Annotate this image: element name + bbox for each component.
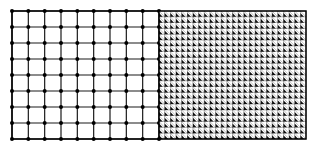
mesh-node (141, 105, 145, 109)
mesh-node (75, 89, 79, 93)
mesh-node (108, 57, 112, 61)
mesh-node (124, 121, 128, 125)
mesh-node (141, 25, 145, 29)
mesh-node (92, 105, 96, 109)
mesh-node (75, 121, 79, 125)
mesh-node (75, 57, 79, 61)
mesh-node (26, 73, 30, 77)
mesh-node (43, 73, 47, 77)
mesh-node (43, 121, 47, 125)
mesh-node (59, 121, 63, 125)
mesh-node (124, 105, 128, 109)
mesh-node (108, 105, 112, 109)
mesh-node (108, 89, 112, 93)
mesh-node (26, 105, 30, 109)
mesh-node (108, 41, 112, 45)
mesh-node (92, 73, 96, 77)
mesh-node (92, 25, 96, 29)
mesh-node (92, 121, 96, 125)
mesh-node (43, 25, 47, 29)
mesh-diagram (0, 0, 318, 149)
mesh-node (59, 25, 63, 29)
mesh-node (43, 41, 47, 45)
mesh-node (141, 41, 145, 45)
mesh-node (124, 73, 128, 77)
mesh-node (124, 41, 128, 45)
mesh-node (108, 121, 112, 125)
mesh-node (124, 89, 128, 93)
mesh-node (26, 41, 30, 45)
mesh-node (75, 25, 79, 29)
mesh-node (124, 57, 128, 61)
mesh-node (124, 25, 128, 29)
mesh-node (43, 105, 47, 109)
mesh-node (43, 89, 47, 93)
mesh-node (59, 73, 63, 77)
mesh-node (92, 41, 96, 45)
mesh-node (75, 41, 79, 45)
fine-triangulated-mesh (159, 11, 306, 139)
mesh-node (43, 57, 47, 61)
mesh-node (59, 41, 63, 45)
mesh-node (26, 121, 30, 125)
mesh-node (141, 73, 145, 77)
coarse-square-mesh (10, 9, 161, 141)
mesh-node (59, 89, 63, 93)
mesh-node (59, 57, 63, 61)
mesh-node (141, 89, 145, 93)
mesh-node (108, 25, 112, 29)
mesh-node (141, 121, 145, 125)
mesh-node (75, 105, 79, 109)
mesh-node (75, 73, 79, 77)
mesh-node (141, 57, 145, 61)
mesh-node (92, 89, 96, 93)
mesh-node (26, 57, 30, 61)
mesh-node (92, 57, 96, 61)
mesh-node (59, 105, 63, 109)
mesh-node (26, 25, 30, 29)
mesh-node (26, 89, 30, 93)
mesh-node (108, 73, 112, 77)
